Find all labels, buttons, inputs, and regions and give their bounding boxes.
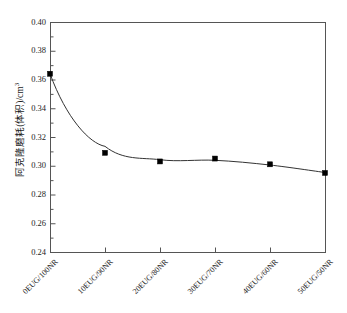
data-curve (50, 74, 325, 173)
plot-frame (51, 23, 326, 253)
data-markers (48, 71, 328, 175)
data-point-marker (158, 159, 163, 164)
chart-figure: 阿克隆磨耗(体积)/cm3 0.400.380.360.340.320.300.… (0, 0, 347, 313)
data-point-marker (213, 156, 218, 161)
axis-ticks (51, 23, 326, 253)
data-point-marker (323, 170, 328, 175)
data-point-marker (268, 162, 273, 167)
data-point-marker (103, 150, 108, 155)
data-point-marker (48, 71, 53, 76)
plot-area (0, 0, 347, 313)
